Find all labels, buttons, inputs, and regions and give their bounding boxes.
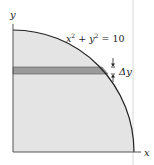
shaded-region (13, 30, 134, 152)
x-axis-label: x (144, 147, 150, 158)
delta-y-label: Δy (118, 66, 132, 77)
y-axis-label: y (9, 9, 16, 20)
delta-y-marker (111, 58, 115, 82)
horizontal-strip (13, 67, 108, 74)
equation-label: x2 + y2 = 10 (66, 32, 125, 44)
quarter-circle-diagram: y x x2 + y2 = 10 Δy (0, 0, 154, 165)
